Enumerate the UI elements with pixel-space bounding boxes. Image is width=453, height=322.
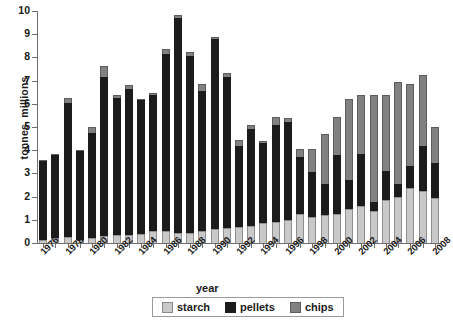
y-tick — [32, 197, 37, 198]
bar-1981 — [100, 66, 108, 243]
y-tick — [32, 34, 37, 35]
bar-segment-chips — [308, 149, 316, 172]
bar-segment-pellets — [308, 172, 316, 217]
bar-segment-chips — [272, 117, 280, 125]
legend-swatch-pellets — [225, 302, 236, 313]
bar-segment-pellets — [235, 146, 243, 227]
bar-segment-pellets — [137, 100, 145, 233]
bar-1979 — [76, 150, 84, 243]
bar-segment-pellets — [211, 39, 219, 229]
bar-segment-chips — [419, 75, 427, 146]
legend-label-starch: starch — [177, 301, 210, 313]
bar-segment-pellets — [284, 122, 292, 219]
bar-1978 — [64, 98, 72, 243]
y-axis-line — [37, 11, 38, 243]
plot-area: 012345678910 197619781980198219841986198… — [37, 11, 441, 243]
y-tick-label: 0 — [10, 237, 30, 248]
bar-segment-chips — [321, 134, 329, 184]
legend-item-pellets: pellets — [225, 301, 275, 313]
bar-segment-chips — [431, 127, 439, 163]
bar-1983 — [125, 85, 133, 243]
y-tick — [32, 57, 37, 58]
bar-1977 — [51, 154, 59, 243]
legend-item-starch: starch — [162, 301, 210, 313]
bar-2008 — [431, 127, 439, 243]
bar-segment-pellets — [113, 98, 121, 235]
bar-segment-pellets — [272, 125, 280, 222]
bar-segment-pellets — [186, 56, 194, 232]
bar-1990 — [211, 37, 219, 243]
bar-segment-pellets — [162, 54, 170, 231]
x-axis-title: year — [196, 282, 219, 294]
bar-segment-pellets — [174, 18, 182, 233]
bar-1991 — [223, 73, 231, 244]
bar-segment-chips — [382, 95, 390, 172]
bar-segment-chips — [406, 84, 414, 166]
chart-legend: starch pellets chips — [152, 297, 344, 317]
bar-segment-pellets — [259, 143, 267, 223]
bar-2005 — [394, 82, 402, 243]
bar-1988 — [186, 52, 194, 243]
legend-item-chips: chips — [290, 301, 334, 313]
y-tick-label: 6 — [10, 98, 30, 109]
bar-segment-pellets — [51, 155, 59, 239]
bar-1997 — [296, 149, 304, 243]
bar-segment-pellets — [100, 77, 108, 236]
bar-1985 — [149, 93, 157, 243]
bar-segment-chips — [296, 149, 304, 157]
bar-segment-pellets — [357, 154, 365, 206]
y-tick-label: 4 — [10, 144, 30, 155]
bar-segment-starch — [406, 188, 414, 243]
bar-segment-pellets — [198, 91, 206, 231]
legend-swatch-starch — [162, 302, 173, 313]
bar-segment-pellets — [419, 146, 427, 191]
bar-segment-chips — [100, 66, 108, 78]
bar-segment-pellets — [39, 161, 47, 240]
bar-1993 — [247, 125, 255, 243]
bar-segment-pellets — [88, 133, 96, 239]
bar-segment-starch — [382, 200, 390, 243]
y-tick-label: 8 — [10, 51, 30, 62]
bar-1984 — [137, 99, 145, 243]
bar-2004 — [382, 95, 390, 243]
bar-1992 — [235, 140, 243, 243]
bar-segment-pellets — [345, 180, 353, 209]
bar-segment-chips — [333, 117, 341, 155]
bar-segment-starch — [357, 206, 365, 243]
bar-2006 — [406, 84, 414, 243]
y-tick — [32, 150, 37, 151]
bar-segment-starch — [431, 198, 439, 243]
y-tick-label: 9 — [10, 28, 30, 39]
bar-segment-pellets — [125, 89, 133, 235]
bar-1976 — [39, 160, 47, 244]
y-tick — [32, 81, 37, 82]
y-tick — [32, 11, 37, 12]
bar-2003 — [370, 95, 378, 243]
bar-2000 — [333, 117, 341, 243]
bar-segment-pellets — [149, 95, 157, 232]
bar-1996 — [284, 118, 292, 243]
bar-segment-pellets — [406, 166, 414, 188]
y-tick — [32, 220, 37, 221]
y-tick-label: 2 — [10, 191, 30, 202]
bar-segment-chips — [357, 95, 365, 154]
bar-1986 — [162, 49, 170, 243]
bar-segment-pellets — [431, 163, 439, 198]
bar-segment-pellets — [333, 155, 341, 214]
bar-1995 — [272, 117, 280, 243]
bar-segment-starch — [333, 214, 341, 243]
bar-2001 — [345, 99, 353, 243]
bar-segment-chips — [370, 95, 378, 203]
y-tick-label: 10 — [10, 5, 30, 16]
legend-label-pellets: pellets — [240, 301, 275, 313]
bar-segment-pellets — [64, 103, 72, 238]
bar-segment-pellets — [223, 77, 231, 228]
y-tick — [32, 243, 37, 244]
y-tick-label: 3 — [10, 167, 30, 178]
bar-segment-chips — [345, 99, 353, 180]
legend-label-chips: chips — [305, 301, 334, 313]
legend-swatch-chips — [290, 302, 301, 313]
y-tick — [32, 127, 37, 128]
bar-1982 — [113, 95, 121, 243]
